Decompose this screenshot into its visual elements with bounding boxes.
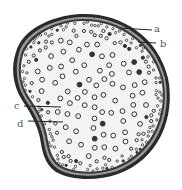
vascular-bundle bbox=[137, 70, 142, 75]
label-c: c bbox=[14, 100, 20, 111]
label-b: b bbox=[160, 38, 166, 49]
vascular-bundle bbox=[122, 160, 124, 162]
label-d: d bbox=[17, 118, 24, 129]
vascular-bundle bbox=[123, 44, 126, 47]
vascular-bundle bbox=[38, 42, 40, 44]
vascular-bundle bbox=[145, 116, 148, 119]
vascular-bundle bbox=[139, 44, 141, 46]
vascular-bundle bbox=[100, 121, 105, 126]
vascular-bundle bbox=[128, 47, 131, 50]
vascular-bundle bbox=[139, 148, 141, 150]
vascular-bundle bbox=[77, 82, 82, 87]
vascular-bundle bbox=[159, 81, 161, 83]
vascular-bundle bbox=[75, 160, 78, 163]
vascular-bundle bbox=[141, 56, 144, 59]
vascular-bundle bbox=[35, 58, 38, 61]
vascular-bundle bbox=[29, 90, 31, 92]
vascular-bundle bbox=[132, 60, 137, 65]
vascular-bundle bbox=[65, 164, 67, 166]
vascular-bundle bbox=[56, 29, 58, 31]
vascular-bundle bbox=[30, 46, 32, 48]
vascular-bundle bbox=[108, 32, 111, 35]
stem-cross-section-diagram: abcd bbox=[0, 0, 182, 190]
vascular-bundle bbox=[90, 52, 95, 57]
vascular-bundle bbox=[136, 151, 138, 153]
vascular-bundle bbox=[106, 167, 108, 169]
vascular-bundle bbox=[41, 108, 43, 110]
vascular-bundle bbox=[46, 101, 49, 104]
label-a: a bbox=[154, 23, 160, 34]
vascular-bundle bbox=[92, 136, 97, 141]
